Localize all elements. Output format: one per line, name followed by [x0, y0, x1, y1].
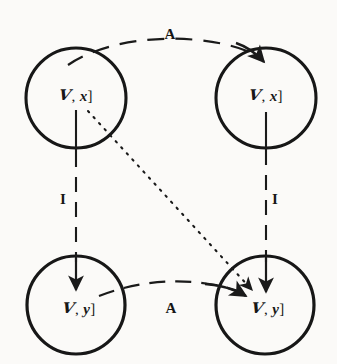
node-bottom-left-separator: ,	[75, 302, 79, 318]
node-top-left-label: V, x]	[59, 87, 93, 106]
edge-right-i-label: I	[272, 191, 278, 208]
node-top-right-bracket: ]	[278, 89, 283, 105]
node-bottom-right-label: V, y]	[252, 300, 285, 319]
edge-top-a-label: A	[165, 26, 176, 43]
edge-bottom-a-label: A	[166, 300, 177, 317]
node-bottom-left-label: V, y]	[63, 300, 96, 319]
node-top-right-label: V, x]	[249, 87, 283, 106]
edge-top-a-path	[68, 39, 258, 65]
edge-diagonal-group	[88, 111, 252, 290]
script-v-glyph: V	[248, 87, 263, 105]
edge-top-a-arrowhead-tail	[236, 43, 264, 62]
node-top-left-separator: ,	[72, 89, 76, 105]
node-top-left-bracket: ]	[88, 89, 93, 105]
node-bottom-right-bracket: ]	[279, 302, 284, 318]
edge-diagonal-dotted-path	[88, 111, 252, 290]
script-v-glyph: V	[58, 87, 73, 105]
node-bottom-left-bracket: ]	[90, 302, 95, 318]
script-v-glyph: V	[61, 300, 76, 318]
node-top-right-separator: ,	[262, 89, 266, 105]
edge-bottom-a-arrowhead-tail	[205, 284, 246, 296]
script-v-glyph: V	[250, 300, 265, 318]
commutative-diagram-figure: V, x] V, x] V, y] V, y] A A I I	[0, 0, 337, 364]
edge-left-i-label: I	[60, 191, 66, 208]
node-bottom-right-separator: ,	[264, 302, 268, 318]
node-bottom-left-variable: y	[83, 302, 90, 318]
node-bottom-right-variable: y	[272, 302, 279, 318]
